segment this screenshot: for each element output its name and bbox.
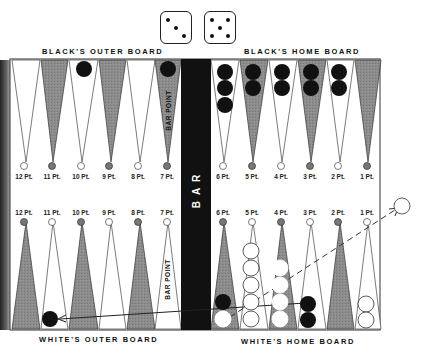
point-label-bottom: 12 Pt. xyxy=(9,209,39,216)
point-label-bottom: 1 Pt. xyxy=(352,209,382,216)
white-checker xyxy=(272,294,288,310)
black-checker xyxy=(160,61,176,77)
point-label-top: 9 Pt. xyxy=(94,173,124,180)
bar-label: BAR xyxy=(191,169,202,209)
black-checker xyxy=(303,80,319,96)
point-label-top: 12 Pt. xyxy=(9,173,39,180)
point-label-top: 6 Pt. xyxy=(208,173,238,180)
point-label-top: 5 Pt. xyxy=(237,173,267,180)
black-checker xyxy=(245,80,261,96)
point-label-bottom: 2 Pt. xyxy=(323,209,353,216)
point-label-bottom: 11 Pt. xyxy=(37,209,67,216)
white-checker xyxy=(243,294,259,310)
point-label-bottom: 9 Pt. xyxy=(94,209,124,216)
bar-point-label-bottom: BAR POINT xyxy=(164,257,171,303)
point-label-top: 7 Pt. xyxy=(152,173,182,180)
black-checker xyxy=(76,61,92,77)
point-label-bottom: 7 Pt. xyxy=(152,209,182,216)
white-checker xyxy=(272,311,288,327)
black-checker xyxy=(303,64,319,80)
point-label-top: 11 Pt. xyxy=(37,173,67,180)
point-label-bottom: 3 Pt. xyxy=(295,209,325,216)
white-checker xyxy=(243,277,259,293)
black-checker xyxy=(274,64,290,80)
black-checker xyxy=(245,64,261,80)
white-checker xyxy=(243,260,259,276)
point-label-bottom: 6 Pt. xyxy=(208,209,238,216)
black-checker xyxy=(300,296,316,312)
black-checker xyxy=(42,311,58,327)
point-label-bottom: 8 Pt. xyxy=(123,209,153,216)
black-checker xyxy=(331,80,347,96)
black-checker xyxy=(300,312,316,328)
point-label-top: 1 Pt. xyxy=(352,173,382,180)
point-label-bottom: 4 Pt. xyxy=(266,209,296,216)
bar-point-label-top: BAR POINT xyxy=(165,88,172,134)
black-checker xyxy=(217,64,233,80)
black-checker xyxy=(331,64,347,80)
black-checker xyxy=(274,80,290,96)
point-label-bottom: 5 Pt. xyxy=(237,209,267,216)
point-label-top: 10 Pt. xyxy=(66,173,96,180)
point-label-bottom: 10 Pt. xyxy=(66,209,96,216)
white-checker xyxy=(272,260,288,276)
white-checker xyxy=(215,311,231,327)
point-label-top: 3 Pt. xyxy=(295,173,325,180)
point-label-top: 2 Pt. xyxy=(323,173,353,180)
black-checker xyxy=(215,294,231,310)
point-label-top: 4 Pt. xyxy=(266,173,296,180)
black-checker xyxy=(217,80,233,96)
black-checker xyxy=(217,97,233,113)
point-label-top: 8 Pt. xyxy=(123,173,153,180)
white-checker xyxy=(358,312,374,328)
white-checker xyxy=(243,311,259,327)
white-checker xyxy=(272,277,288,293)
white-checker-off-board xyxy=(394,198,410,214)
white-checker xyxy=(358,296,374,312)
white-checker xyxy=(243,243,259,259)
